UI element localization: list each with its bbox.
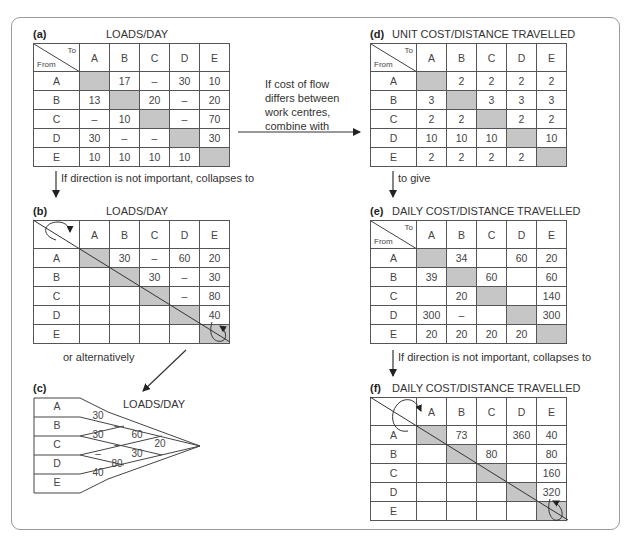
row-header-b: B [371,445,417,464]
cell-e-d: 2 [507,148,537,167]
unit-cost-matrix: ToFromABCDEA2222B3333C2222D10101010E2222 [370,43,567,167]
table-row: D30––30 [34,129,230,148]
cell-b-a [417,445,447,464]
table-row: B3333 [371,91,567,110]
cell-d-c [477,483,507,502]
collapsed-daily-cost-matrix: ABCDEA7336040B8080C160D320E [370,397,567,521]
column-header-d: D [507,44,537,72]
cell-c-d [507,287,537,306]
cell-a-b: 2 [447,72,477,91]
table-row: D300–300 [371,306,567,325]
row-header-c: C [371,287,417,306]
daily-cost-matrix: ToFromABCDEA346020B396060C20140D300–300E… [370,220,567,344]
cell-e-e [200,148,230,167]
cell-b-c: 30 [140,268,170,287]
corner-cell: ToFrom [34,44,80,72]
column-header-a: A [417,221,447,249]
row-header-e: E [371,325,417,344]
cell-d-c [477,306,507,325]
cell-b-e: 60 [537,268,567,287]
table-row: C–80 [34,287,230,306]
chart-row-b: B [47,419,67,431]
cell-e-d: 10 [170,148,200,167]
chart-value-be: 30 [127,448,147,459]
chart-value-cd: – [88,448,108,459]
table-row: E10101010 [34,148,230,167]
cell-b-a: 39 [417,268,447,287]
cell-c-c [477,287,507,306]
cell-e-a [417,502,447,521]
cell-e-a [80,325,110,344]
cell-c-b [110,287,140,306]
cell-c-b: 20 [447,287,477,306]
cell-a-d: 360 [507,426,537,445]
row-header-a: A [371,72,417,91]
cell-e-c: 20 [477,325,507,344]
corner-diagonal [34,44,80,72]
column-header-a: A [417,398,447,426]
cell-e-b [110,325,140,344]
column-header-c: C [140,44,170,72]
column-header-e: E [537,398,567,426]
header-row: ToFromABCDE [371,44,567,72]
cell-b-d: – [170,91,200,110]
table-row: A17–3010 [34,72,230,91]
row-header-c: C [34,110,80,129]
cell-b-b [447,268,477,287]
table-row: D320 [371,483,567,502]
chart-value-ab: 30 [88,410,108,421]
cell-a-c: – [140,72,170,91]
column-header-b: B [447,221,477,249]
column-header-e: E [200,44,230,72]
cell-a-a [417,249,447,268]
row-header-a: A [34,249,80,268]
cell-e-a: 2 [417,148,447,167]
panel-c-label: (c) [33,382,46,394]
table-row: A7336040 [371,426,567,445]
chart-value-bd: – [107,439,127,450]
row-header-a: A [34,72,80,91]
cell-c-b: 10 [110,110,140,129]
chart-value-ac: – [107,420,127,431]
panel-e-title: DAILY COST/DISTANCE TRAVELLED [392,205,580,217]
column-header-e: E [537,44,567,72]
cell-a-a [80,249,110,268]
column-header-b: B [447,44,477,72]
cell-c-d: 2 [507,110,537,129]
cell-d-e: 320 [537,483,567,502]
cell-b-e: 3 [537,91,567,110]
cell-e-e [537,148,567,167]
column-header-e: E [200,221,230,249]
cell-e-e [537,502,567,521]
table-row: E20202020 [371,325,567,344]
collapse-annotation-a: If direction is not important, collapses… [61,171,254,185]
collapse-annotation-e: If direction is not important, collapses… [398,350,591,364]
cell-e-c: 10 [140,148,170,167]
cell-e-d: 20 [507,325,537,344]
row-header-a: A [371,426,417,445]
cell-b-d [507,268,537,287]
cell-e-b: 2 [447,148,477,167]
cell-c-b [447,464,477,483]
panel-e-label: (e) [370,205,383,217]
row-header-d: D [34,306,80,325]
combine-line-4: combine with [265,119,339,133]
row-header-b: B [371,91,417,110]
corner-diagonal [371,221,417,249]
column-header-d: D [507,398,537,426]
cell-a-e: 2 [537,72,567,91]
cell-a-a [80,72,110,91]
cell-c-a: – [80,110,110,129]
cell-e-c [140,325,170,344]
row-header-c: C [371,110,417,129]
cell-d-a: 10 [417,129,447,148]
cell-c-c [477,464,507,483]
column-header-d: D [507,221,537,249]
cell-d-d [170,306,200,325]
table-row: C160 [371,464,567,483]
header-row: ToFromABCDE [371,221,567,249]
cell-d-a [80,306,110,325]
cell-d-b: – [447,306,477,325]
cell-b-b [447,445,477,464]
panel-a-title: LOADS/DAY [106,28,168,40]
